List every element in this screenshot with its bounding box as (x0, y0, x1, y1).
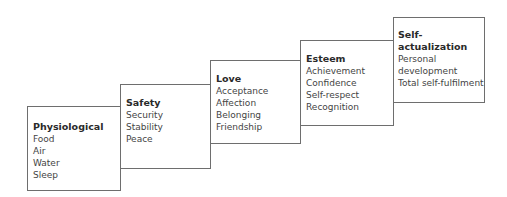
level-item: Food (33, 133, 120, 145)
level-physiological: Physiological Food Air Water Sleep (27, 106, 121, 191)
level-title: Safety (126, 97, 210, 109)
level-item: Acceptance (216, 85, 300, 97)
level-title: Physiological (33, 121, 120, 133)
level-title: Esteem (306, 53, 393, 65)
level-item: Sleep (33, 169, 120, 181)
level-item: Recognition (306, 101, 393, 113)
level-self-actualization: Self-actualization Personal development … (393, 17, 485, 103)
level-item: Water (33, 157, 120, 169)
level-esteem: Esteem Achievement Confidence Self-respe… (300, 40, 394, 126)
level-item: Stability (126, 121, 210, 133)
level-title: Love (216, 73, 300, 85)
level-safety: Safety Security Stability Peace (120, 84, 211, 169)
level-item: Confidence (306, 77, 393, 89)
level-item: development (398, 65, 484, 77)
level-love: Love Acceptance Affection Belonging Frie… (210, 60, 301, 144)
level-item: Belonging (216, 109, 300, 121)
level-item: Peace (126, 133, 210, 145)
level-item: Personal (398, 53, 484, 65)
level-item: Achievement (306, 65, 393, 77)
level-item: Friendship (216, 121, 300, 133)
level-item: Air (33, 145, 120, 157)
level-item: Security (126, 109, 210, 121)
level-item: Self-respect (306, 89, 393, 101)
level-title: Self-actualization (398, 29, 484, 53)
level-item: Total self-fulfilment (398, 77, 484, 89)
level-item: Affection (216, 97, 300, 109)
